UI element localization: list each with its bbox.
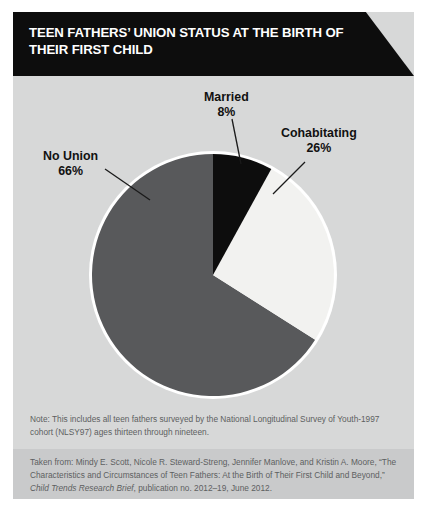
source-text: Taken from: Mindy E. Scott, Nicole R. St… [30, 456, 402, 495]
label-married-name: Married [204, 90, 249, 104]
label-no-union-name: No Union [43, 149, 98, 163]
label-no-union-pct: 66% [43, 164, 98, 179]
label-cohabitating-name: Cohabitating [281, 126, 357, 140]
source-block: Taken from: Mindy E. Scott, Nicole R. St… [13, 449, 414, 499]
note-text: Note: This includes all teen fathers sur… [30, 413, 402, 439]
label-married: Married 8% [204, 90, 249, 120]
source-suffix: , publication no. 2012–19, June 2012. [134, 483, 272, 493]
note-block: Note: This includes all teen fathers sur… [13, 406, 414, 449]
pie-chart: Married 8% Cohabitating 26% No Union 66% [13, 76, 414, 406]
label-married-pct: 8% [204, 105, 249, 120]
label-cohabitating-pct: 26% [281, 141, 357, 156]
page-title: TEEN FATHERS’ UNION STATUS AT THE BIRTH … [29, 24, 359, 58]
figure-panel: TEEN FATHERS’ UNION STATUS AT THE BIRTH … [13, 12, 414, 499]
label-no-union: No Union 66% [43, 149, 98, 179]
source-prefix: Taken from: Mindy E. Scott, Nicole R. St… [30, 457, 396, 480]
source-publication-title: Child Trends Research Brief [30, 483, 134, 493]
label-cohabitating: Cohabitating 26% [281, 126, 357, 156]
